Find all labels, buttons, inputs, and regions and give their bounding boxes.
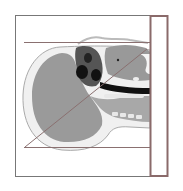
right-bar: [151, 16, 168, 176]
figure: [0, 0, 183, 191]
